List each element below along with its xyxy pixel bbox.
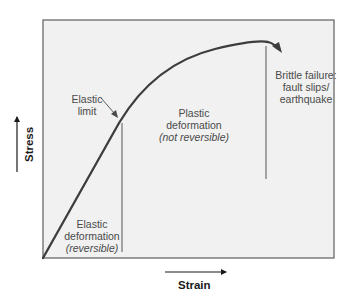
elastic-limit-label: Elastic limit [67, 93, 107, 117]
elastic-deformation-line2: deformation [62, 230, 122, 242]
x-axis-label: Strain [178, 279, 211, 291]
elastic-deformation-line1: Elastic [62, 218, 122, 230]
plastic-deformation-line1: Plastic [151, 107, 237, 119]
brittle-failure-line1: Brittle failure: [269, 69, 343, 81]
stress-strain-diagram [0, 0, 350, 299]
plastic-deformation-label: Plastic deformation (not reversible) [151, 107, 237, 143]
elastic-deformation-note: (reversible) [62, 242, 122, 254]
elastic-limit-line1: Elastic [67, 93, 107, 105]
brittle-failure-label: Brittle failure: fault slips/ earthquake [269, 69, 343, 105]
elastic-limit-line2: limit [67, 105, 107, 117]
plastic-deformation-note: (not reversible) [151, 131, 237, 143]
plastic-deformation-line2: deformation [151, 119, 237, 131]
y-axis-label: Stress [23, 127, 35, 162]
elastic-deformation-label: Elastic deformation (reversible) [62, 218, 122, 254]
brittle-failure-line2: fault slips/ [269, 81, 343, 93]
brittle-failure-line3: earthquake [269, 93, 343, 105]
